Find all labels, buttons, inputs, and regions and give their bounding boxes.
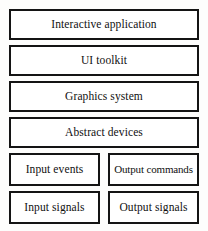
- layer-box-graphics-system[interactable]: Graphics system: [9, 81, 199, 112]
- layer-label: Output signals: [119, 202, 187, 214]
- layer-label: Graphics system: [65, 91, 143, 103]
- layer-box-output-signals[interactable]: Output signals: [108, 191, 199, 224]
- layer-stack: Interactive application UI toolkit Graph…: [9, 9, 199, 224]
- layer-label: Output commands: [114, 164, 193, 175]
- layer-label: Input events: [26, 164, 84, 176]
- layer-row-events-commands: Input events Output commands: [9, 153, 199, 186]
- layer-label: UI toolkit: [81, 55, 127, 67]
- layer-box-abstract-devices[interactable]: Abstract devices: [9, 117, 199, 148]
- layer-diagram: Interactive application UI toolkit Graph…: [0, 0, 208, 231]
- layer-box-input-signals[interactable]: Input signals: [9, 191, 100, 224]
- layer-label: Abstract devices: [65, 127, 143, 139]
- layer-row-signals: Input signals Output signals: [9, 191, 199, 224]
- layer-box-input-events[interactable]: Input events: [9, 153, 100, 186]
- layer-label: Input signals: [24, 202, 84, 214]
- layer-box-output-commands[interactable]: Output commands: [108, 153, 199, 186]
- layer-box-ui-toolkit[interactable]: UI toolkit: [9, 45, 199, 76]
- layer-box-interactive-application[interactable]: Interactive application: [9, 9, 199, 40]
- layer-label: Interactive application: [51, 19, 156, 31]
